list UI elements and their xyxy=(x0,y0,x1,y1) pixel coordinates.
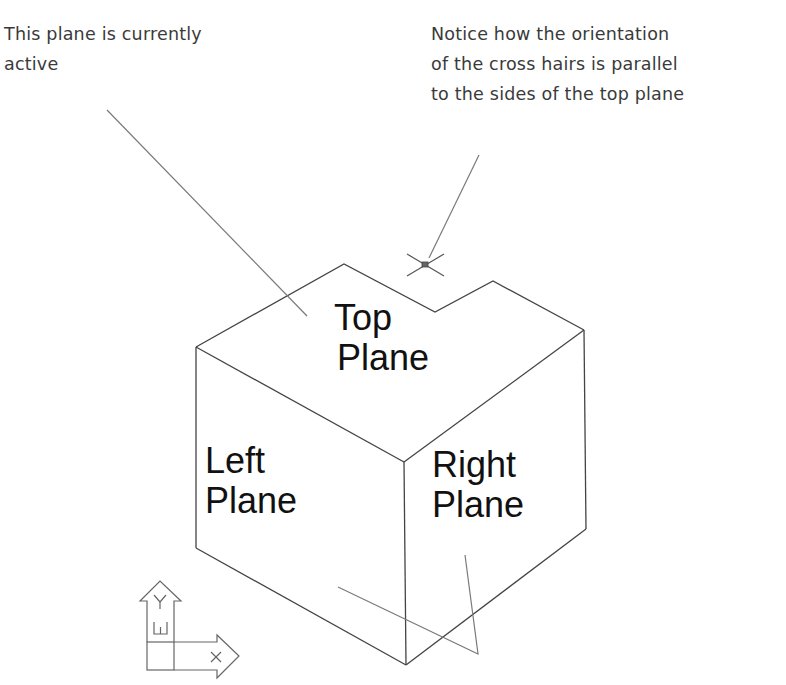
leader-active-plane xyxy=(107,110,307,316)
left-plane-label-line-2: Plane xyxy=(205,481,297,521)
right-top-front-edge xyxy=(404,330,584,462)
ucs-icon xyxy=(140,581,239,678)
crosshair-cursor-icon xyxy=(407,254,444,276)
right-plane-label-line-1: Right xyxy=(432,445,524,485)
front-vertical-edge xyxy=(404,462,406,665)
top-plane-label: Top Plane xyxy=(334,298,429,378)
right-vertical-edge xyxy=(584,330,586,529)
left-plane-label: Left Plane xyxy=(205,441,297,521)
ucs-x-axis-arrow-icon xyxy=(174,635,239,678)
top-plane-label-line-2: Plane xyxy=(337,338,429,378)
right-plane-label: Right Plane xyxy=(432,445,524,525)
leader-crosshair xyxy=(429,155,479,258)
right-plane-label-line-2: Plane xyxy=(432,485,524,525)
ucs-x-letter-icon xyxy=(211,652,221,662)
ucs-y-letter-icon xyxy=(154,595,166,609)
ucs-origin-box xyxy=(147,642,174,670)
left-plane-label-line-1: Left xyxy=(205,441,297,481)
top-plane-label-line-1: Top xyxy=(334,298,429,338)
right-bottom-edge xyxy=(406,529,586,665)
leader-lines xyxy=(107,110,479,654)
left-bottom-edge xyxy=(196,548,406,665)
